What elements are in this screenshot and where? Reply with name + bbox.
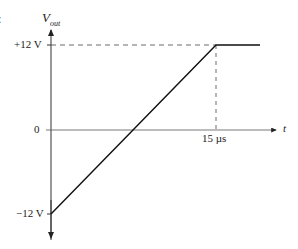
tick-label-time: 15 µs <box>202 132 226 144</box>
x-axis-label: t <box>283 122 286 134</box>
y-axis-label-sub: out <box>50 19 60 28</box>
y-axis-label-main: V <box>42 10 50 25</box>
tick-label-neg: −12 V <box>16 207 44 219</box>
corner-fragment: : <box>0 12 1 27</box>
vout-waveform <box>51 45 260 214</box>
waveform-diagram <box>0 0 298 249</box>
tick-label-pos: +12 V <box>14 38 42 50</box>
y-axis-label: Vout <box>42 10 60 28</box>
tick-label-zero: 0 <box>34 123 40 135</box>
